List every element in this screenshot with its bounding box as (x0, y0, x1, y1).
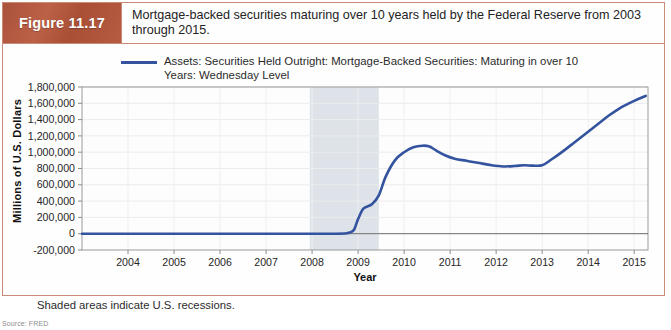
y-axis-tick-label: 1,200,000 (28, 130, 75, 142)
y-axis-tick-label: 200,000 (37, 211, 75, 223)
y-axis-tick-label: 800,000 (37, 162, 75, 174)
x-axis-tick-label: 2009 (346, 256, 370, 268)
chart-legend: Assets: Securities Held Outright: Mortga… (121, 55, 594, 82)
y-axis-tick-label: 0 (69, 227, 75, 239)
y-axis-tick-label: 1,800,000 (28, 81, 75, 93)
x-axis-tick-label: 2007 (254, 256, 278, 268)
y-axis-tick-label: 400,000 (37, 195, 75, 207)
y-axis-tick-label: 1,400,000 (28, 113, 75, 125)
x-axis-tick-label: 2004 (116, 256, 140, 268)
x-axis-tick-label: 2005 (162, 256, 186, 268)
x-axis-title: Year (353, 271, 377, 283)
recession-note: Shaded areas indicate U.S. recessions. (37, 299, 235, 311)
chart-plot-container: 1,800,0001,600,0001,400,0001,200,0001,00… (3, 79, 666, 297)
x-axis-tick-label: 2013 (530, 256, 554, 268)
y-axis-tick-label: -200,000 (33, 244, 75, 256)
y-axis-tick-label: 1,600,000 (28, 97, 75, 109)
x-axis-tick-label: 2010 (392, 256, 416, 268)
y-axis-tick-label: 600,000 (37, 178, 75, 190)
x-axis-tick-label: 2008 (300, 256, 324, 268)
y-axis-tick-label: 1,000,000 (28, 146, 75, 158)
legend-line-swatch (121, 61, 157, 64)
x-axis-tick-label: 2015 (622, 256, 646, 268)
figure-header: Figure 11.17 Mortgage-backed securities … (3, 3, 664, 44)
x-axis-tick-label: 2012 (484, 256, 508, 268)
x-axis-tick-label: 2011 (439, 256, 462, 268)
figure-source: Source: FRED (2, 320, 48, 327)
figure-frame: Figure 11.17 Mortgage-backed securities … (2, 2, 665, 296)
figure-number-badge: Figure 11.17 (3, 3, 122, 43)
x-axis-tick-label: 2014 (576, 256, 600, 268)
line-chart: 1,800,0001,600,0001,400,0001,200,0001,00… (3, 79, 666, 297)
legend-series-label: Assets: Securities Held Outright: Mortga… (164, 55, 594, 82)
figure-caption-text: Mortgage-backed securities maturing over… (132, 8, 654, 38)
figure-number-label: Figure 11.17 (19, 15, 105, 31)
x-axis-tick-label: 2006 (208, 256, 232, 268)
figure-caption: Mortgage-backed securities maturing over… (122, 3, 664, 43)
